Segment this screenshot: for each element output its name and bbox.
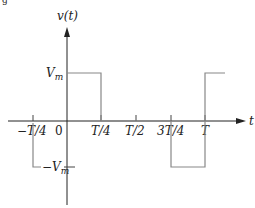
y-axis-arrow-icon bbox=[64, 27, 70, 37]
vm-negative-label: −Vm bbox=[42, 160, 69, 176]
waveform-main-segment bbox=[67, 73, 225, 167]
x-axis-arrow-icon bbox=[236, 118, 246, 124]
tick-label-half: T/2 bbox=[125, 124, 145, 138]
y-axis-label: v(t) bbox=[57, 9, 78, 23]
x-axis-label: t bbox=[249, 114, 254, 128]
vm-positive-label: Vm bbox=[46, 66, 63, 82]
caption-fragment: g bbox=[2, 0, 8, 5]
tick-label-neg-quarter: −T/4 bbox=[17, 124, 47, 138]
tick-label-quarter: T/4 bbox=[91, 124, 111, 138]
tick-label-zero: 0 bbox=[55, 124, 63, 138]
waveform bbox=[33, 73, 225, 167]
square-wave-diagram: g v(t) t −T/4 0 T/4 T/2 3T/4 T Vm −Vm bbox=[0, 0, 255, 208]
